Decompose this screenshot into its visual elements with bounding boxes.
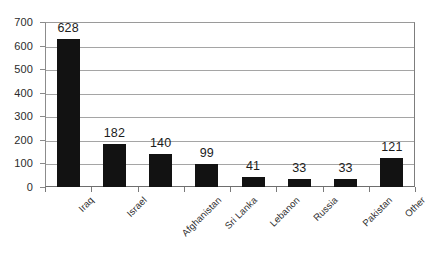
bar (103, 144, 126, 187)
bar-value-label: 140 (150, 137, 171, 150)
y-tick-label: 300 (14, 111, 33, 122)
y-tick-label: 200 (14, 134, 33, 145)
y-tick-mark (40, 22, 45, 23)
x-tick-label: Other (403, 195, 427, 219)
bar (195, 164, 218, 187)
bar (334, 179, 357, 187)
x-tick-mark (230, 187, 231, 192)
bar (57, 39, 80, 187)
y-tick-mark (40, 69, 45, 70)
bars-layer: 62818214099413333121 (45, 22, 415, 187)
x-tick-mark (276, 187, 277, 192)
y-tick-mark (40, 163, 45, 164)
x-tick-mark (45, 187, 46, 192)
bar-value-label: 41 (246, 160, 260, 173)
bar-value-label: 182 (104, 127, 125, 140)
x-tick-label: Afghanistan (180, 195, 223, 238)
bar-value-label: 121 (381, 141, 402, 154)
y-tick-label: 500 (14, 64, 33, 75)
x-tick-label: Pakistan (361, 195, 394, 228)
bar-value-label: 33 (338, 162, 352, 175)
x-tick-mark (415, 187, 416, 192)
y-tick-label: 100 (14, 158, 33, 169)
bar (149, 154, 172, 187)
x-tick-label: Israel (125, 195, 149, 219)
x-tick-label: Iraq (77, 195, 96, 214)
x-tick-mark (91, 187, 92, 192)
y-axis: 0100200300400500600700 (0, 22, 33, 187)
x-tick-mark (369, 187, 370, 192)
x-tick-label: Sri Lanka (223, 195, 259, 231)
y-tick-mark (40, 46, 45, 47)
y-tick-mark (40, 116, 45, 117)
y-tick-mark (40, 93, 45, 94)
x-tick-mark (323, 187, 324, 192)
bar (242, 177, 265, 187)
y-tick-label: 400 (14, 87, 33, 98)
bar (288, 179, 311, 187)
x-tick-label: Lebanon (268, 195, 302, 229)
y-tick-label: 600 (14, 40, 33, 51)
bar (380, 158, 403, 187)
x-tick-label: Russia (312, 195, 340, 223)
bar-value-label: 99 (200, 147, 214, 160)
x-tick-mark (138, 187, 139, 192)
x-tick-mark (184, 187, 185, 192)
y-tick-mark (40, 140, 45, 141)
bar-value-label: 33 (292, 162, 306, 175)
y-tick-label: 700 (14, 17, 33, 28)
x-axis: IraqIsraelAfghanistanSri LankaLebanonRus… (0, 187, 435, 257)
bar-chart: 0100200300400500600700 62818214099413333… (0, 0, 435, 257)
bar-value-label: 628 (57, 22, 78, 35)
